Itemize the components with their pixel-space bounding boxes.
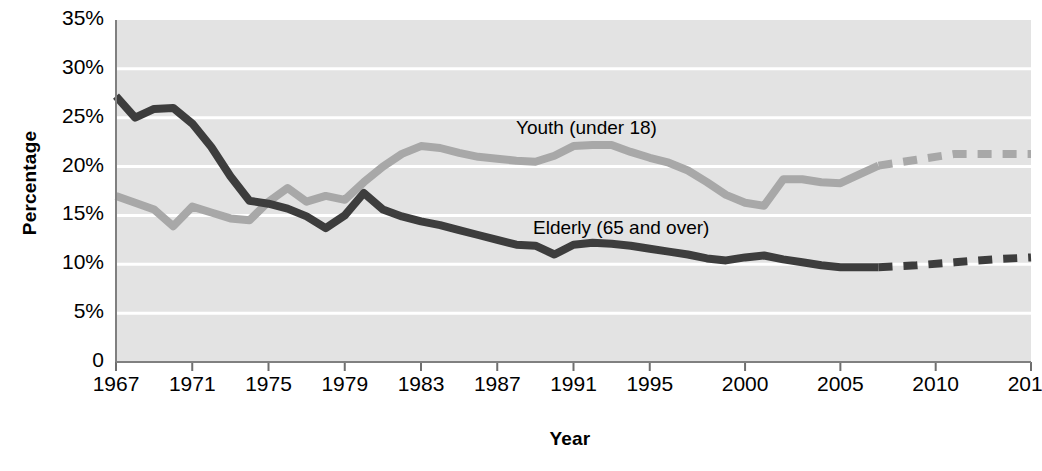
axis-tick-marks: [116, 362, 1031, 371]
y-axis-title: Percentage: [19, 93, 41, 273]
plot-area: [0, 0, 1042, 471]
x-axis-title: Year: [470, 428, 670, 450]
plot-background: [116, 20, 1031, 362]
series-label-elderly: Elderly (65 and over): [533, 217, 709, 239]
poverty-rate-line-chart: Percentage Year 35%30%25%20%15%10%5%0 19…: [0, 0, 1042, 471]
series-label-youth: Youth (under 18): [516, 117, 657, 139]
